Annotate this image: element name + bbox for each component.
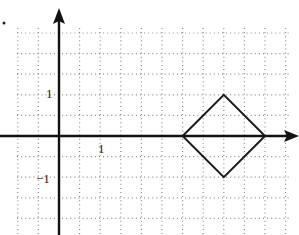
y-tick-label-neg1: −1 — [36, 171, 50, 186]
axes — [0, 8, 299, 235]
stray-dot — [3, 22, 6, 25]
x-tick-label-1: 1 — [98, 141, 105, 156]
y-tick-label-1: 1 — [46, 86, 53, 101]
coordinate-plane-figure: 1 1 −1 — [0, 0, 299, 235]
